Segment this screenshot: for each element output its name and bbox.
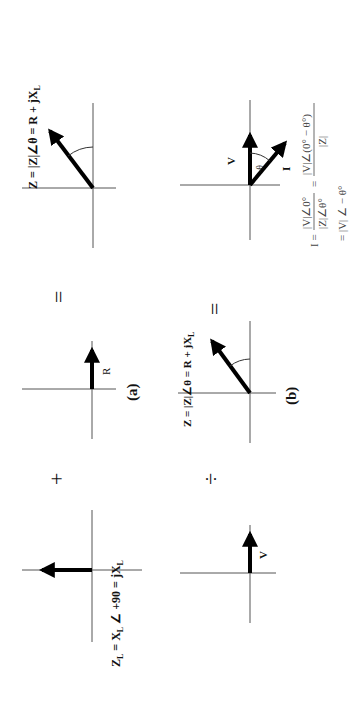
frac1-numerator: |V|∠0° (300, 197, 312, 229)
xl-label: ZL = XL ∠ +90 = jXL (109, 560, 125, 667)
z-vector-arrow-icon (50, 131, 93, 188)
frac1-denominator: |Z|∠θ° (316, 198, 328, 229)
plus-operator: + (44, 473, 69, 485)
frac2-denominator: |Z| (316, 136, 328, 147)
v-phasor-diagram: V (180, 525, 276, 623)
caption-a: (a) (124, 384, 141, 402)
v-label: V (257, 551, 269, 559)
z-vector-arrow-icon (212, 341, 250, 393)
formula-line2: = |V| ∠ − θ° (336, 186, 348, 241)
theta-arc (250, 153, 270, 161)
r-phasor-diagram: R (22, 341, 116, 439)
z-phasor-diagram-a: Z = |Z|∠θ = R + jXL (22, 85, 116, 248)
current-formula: I = |V|∠0° |Z|∠θ° = |V|∠(0° − θ°) |Z| = … (300, 103, 348, 247)
z-label: Z = |Z|∠θ = R + jXL (26, 85, 42, 189)
z-phasor-diagram-b: Z = |Z|∠θ = R + jXL (178, 321, 276, 443)
figure-canvas: ZL = XL ∠ +90 = jXL + R (a) = Z = |Z|∠θ … (0, 0, 354, 707)
z-label: Z = |Z|∠θ = R + jXL (181, 332, 196, 427)
formula-lhs: I = (308, 234, 320, 247)
impedance-phasor-figure: ZL = XL ∠ +90 = jXL + R (a) = Z = |Z|∠θ … (0, 0, 354, 707)
i-label: I (280, 167, 292, 171)
theta-arc (230, 359, 250, 366)
angle-label: -θ (254, 165, 265, 173)
equals-operator: = (46, 291, 71, 303)
frac2-numerator: |V|∠(0° − θ°) (300, 114, 313, 175)
caption-b: (b) (283, 387, 300, 405)
formula-eq: = (308, 181, 320, 187)
divide-operator: ÷ (198, 473, 223, 485)
r-label: R (100, 367, 112, 375)
v-label: V (225, 157, 237, 165)
equals-operator: = (202, 303, 227, 315)
xl-phasor-diagram: ZL = XL ∠ +90 = jXL (22, 510, 142, 667)
theta-arc (68, 147, 93, 156)
vi-phasor-diagram: V I -θ (180, 100, 292, 240)
